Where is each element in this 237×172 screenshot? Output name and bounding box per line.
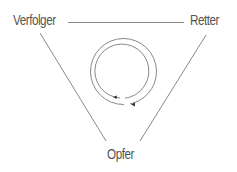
edge-persecutor-victim [40, 33, 106, 141]
node-label-rescuer: Retter [190, 12, 219, 27]
edge-rescuer-victim [140, 35, 206, 141]
node-label-victim: Opfer [107, 146, 134, 161]
cycle-arrows-icon [91, 39, 157, 107]
drama-triangle-diagram: Verfolger Retter Opfer [0, 0, 237, 172]
node-label-persecutor: Verfolger [13, 12, 56, 27]
arrowhead-inner [113, 96, 117, 100]
